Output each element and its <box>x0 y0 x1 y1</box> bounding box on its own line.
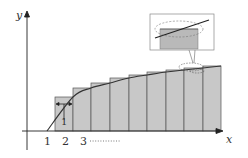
rectangle-3 <box>91 83 110 131</box>
y-axis-arrow-icon <box>25 11 30 17</box>
rectangle-4 <box>110 78 129 131</box>
rectangle-5 <box>129 75 147 131</box>
x-axis-label: x <box>226 134 232 145</box>
tick-label-3: 3 <box>80 136 87 147</box>
riemann-sum-diagram <box>0 0 248 158</box>
callout-pointer <box>189 50 195 63</box>
rectangles <box>55 66 221 131</box>
tick-label-1: 1 <box>44 136 51 147</box>
width-label: 1 <box>61 117 67 127</box>
rectangle-7 <box>166 70 184 131</box>
rectangle-9 <box>203 66 221 131</box>
rectangle-8 <box>184 68 203 131</box>
tick-label-2: 2 <box>62 136 69 147</box>
callout-box <box>150 14 214 50</box>
y-axis-label: y <box>16 10 22 21</box>
rectangle-6 <box>147 72 166 131</box>
